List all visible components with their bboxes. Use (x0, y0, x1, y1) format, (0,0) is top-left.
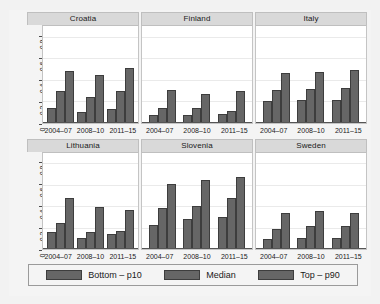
bar (125, 210, 134, 249)
bar-groups (43, 153, 138, 250)
bar (116, 91, 125, 122)
plot-area (42, 152, 139, 251)
bar (315, 211, 324, 249)
panel-title-strip: Croatia (27, 12, 139, 25)
plot-wrapper (255, 152, 367, 251)
bar (192, 206, 201, 249)
legend-item: Top – p90 (258, 270, 340, 280)
bar-group (77, 26, 104, 123)
x-tick-label: 2004–07 (45, 127, 72, 134)
bar-group (297, 26, 324, 123)
panel-title: Slovenia (181, 142, 213, 150)
bar (86, 97, 95, 123)
bar (95, 207, 104, 249)
plot-wrapper: 00.20.40.60.8 (27, 152, 139, 251)
bar (158, 208, 167, 249)
bar-groups (142, 26, 252, 123)
bar-group (107, 26, 134, 123)
bar-group (47, 153, 74, 250)
bar (272, 90, 281, 122)
x-tick-label: 2011–15 (109, 127, 136, 134)
bar (306, 89, 315, 122)
x-tick-label: 2008–10 (77, 253, 104, 260)
bar (236, 177, 245, 249)
plot-area (141, 25, 253, 124)
bar (218, 217, 227, 249)
panel-grid: Croatia00.20.40.60.82004–072008–102011–1… (9, 12, 371, 264)
x-tick-label: 2004–07 (146, 253, 173, 260)
bar (297, 100, 306, 123)
bar (95, 75, 104, 122)
panel-title: Lithuania (66, 142, 99, 150)
panel-title: Sweden (296, 142, 326, 150)
panel-title: Croatia (70, 15, 97, 23)
panel-lithuania: Lithuania00.20.40.60.82004–072008–102011… (27, 139, 139, 265)
plot-wrapper (255, 25, 367, 124)
bar-group (263, 153, 290, 250)
bar-group (332, 153, 359, 250)
bar (281, 213, 290, 249)
x-tick-label: 2011–15 (335, 127, 362, 134)
plot-area (255, 152, 367, 251)
bar-group (77, 153, 104, 250)
bar (125, 68, 134, 123)
x-axis-labels: 2004–072008–102011–15 (255, 250, 367, 264)
bar (65, 198, 74, 249)
bar (350, 70, 359, 123)
panel-slovenia: Slovenia2004–072008–102011–15 (141, 139, 253, 265)
y-axis: 00.20.40.60.8 (27, 152, 42, 251)
x-tick-label: 2008–10 (297, 253, 324, 260)
plot-wrapper (141, 152, 253, 251)
bar (201, 94, 210, 123)
panel-italy: Italy2004–072008–102011–15 (255, 12, 367, 138)
bar (167, 184, 176, 249)
y-axis: 00.20.40.60.8 (27, 25, 42, 124)
bar (236, 91, 245, 122)
panel-sweden: Sweden2004–072008–102011–15 (255, 139, 367, 265)
bar-groups (256, 26, 366, 123)
x-tick-label: 2004–07 (260, 253, 287, 260)
x-tick-label: 2011–15 (221, 253, 248, 260)
x-axis-baseline (43, 122, 138, 123)
x-axis-labels: 2004–072008–102011–15 (141, 250, 253, 264)
bar-group (263, 26, 290, 123)
panel-title-strip: Finland (141, 12, 253, 25)
bar (65, 71, 74, 122)
bar (341, 88, 350, 122)
bar-group (218, 153, 245, 250)
panel-title-strip: Sweden (255, 139, 367, 152)
bar (341, 226, 350, 249)
bar-group (47, 26, 74, 123)
bar-group (149, 153, 176, 250)
chart-screenshot: Croatia00.20.40.60.82004–072008–102011–1… (0, 0, 380, 304)
bar (183, 219, 192, 249)
x-tick-label: 2004–07 (260, 127, 287, 134)
x-axis-baseline (256, 248, 366, 249)
legend-swatch (258, 270, 294, 280)
bar-groups (142, 153, 252, 250)
x-tick-label: 2011–15 (221, 127, 248, 134)
bar (107, 109, 116, 123)
bar (47, 232, 56, 249)
bar (281, 73, 290, 122)
legend-item: Bottom – p10 (46, 270, 142, 280)
bar-group (332, 26, 359, 123)
legend-label: Bottom – p10 (88, 271, 142, 280)
panel-title: Italy (303, 15, 318, 23)
plot-wrapper (141, 25, 253, 124)
bar (350, 213, 359, 249)
bar (86, 232, 95, 249)
chart-legend: Bottom – p10MedianTop – p90 (28, 264, 358, 286)
x-tick-label: 2008–10 (297, 127, 324, 134)
x-tick-label: 2008–10 (183, 253, 210, 260)
x-axis-labels: 2004–072008–102011–15 (42, 124, 139, 138)
bar (263, 101, 272, 122)
x-axis-baseline (43, 248, 138, 249)
bar (56, 223, 65, 249)
plot-area (42, 25, 139, 124)
bar (116, 231, 125, 249)
bar-group (218, 26, 245, 123)
bar (192, 108, 201, 123)
x-axis-labels: 2004–072008–102011–15 (141, 124, 253, 138)
x-axis-baseline (256, 122, 366, 123)
